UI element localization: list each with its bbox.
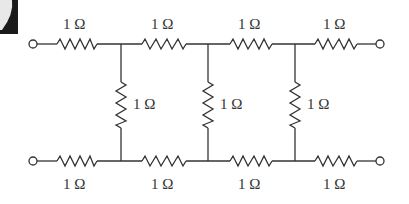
resistor-shunt-2 <box>203 82 213 128</box>
label-bottom-2: 1 Ω <box>151 177 173 192</box>
resistor-top-3 <box>230 39 272 49</box>
resistor-bottom-4 <box>315 156 357 166</box>
label-shunt-2: 1 Ω <box>220 97 242 112</box>
label-top-3: 1 Ω <box>238 17 260 32</box>
resistor-top-2 <box>142 39 186 49</box>
label-shunt-3: 1 Ω <box>307 97 329 112</box>
resistor-top-1 <box>57 39 97 49</box>
label-top-2: 1 Ω <box>151 17 173 32</box>
resistor-bottom-3 <box>230 156 272 166</box>
label-shunt-1: 1 Ω <box>133 97 155 112</box>
circuit-diagram <box>0 0 409 204</box>
resistor-shunt-1 <box>116 82 126 128</box>
label-top-1: 1 Ω <box>63 17 85 32</box>
label-top-4: 1 Ω <box>323 17 345 32</box>
label-bottom-4: 1 Ω <box>323 177 345 192</box>
shunt-branch-1 <box>116 44 126 161</box>
resistor-bottom-2 <box>142 156 186 166</box>
terminal-top-left <box>29 40 37 48</box>
terminal-top-right <box>376 40 384 48</box>
resistor-top-4 <box>315 39 357 49</box>
label-bottom-3: 1 Ω <box>238 177 260 192</box>
resistor-shunt-3 <box>290 82 300 128</box>
terminal-bottom-right <box>376 157 384 165</box>
resistor-bottom-1 <box>57 156 97 166</box>
label-bottom-1: 1 Ω <box>63 177 85 192</box>
terminal-bottom-left <box>29 157 37 165</box>
shunt-branch-2 <box>203 44 213 161</box>
shunt-branch-3 <box>290 44 300 161</box>
